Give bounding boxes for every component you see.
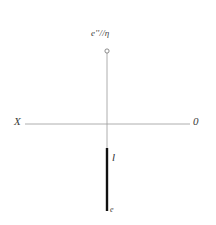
segment-label-l: l bbox=[112, 152, 115, 163]
point-label-e: e bbox=[110, 206, 114, 214]
projection-point-circle-marker bbox=[105, 49, 109, 53]
ground-line-label-x: X bbox=[14, 116, 21, 127]
projection-label-e-double-prime: e''//η bbox=[91, 29, 110, 38]
descriptive-geometry-figure: X 0 e''//η l e bbox=[0, 0, 216, 225]
origin-label-0: 0 bbox=[193, 116, 199, 127]
